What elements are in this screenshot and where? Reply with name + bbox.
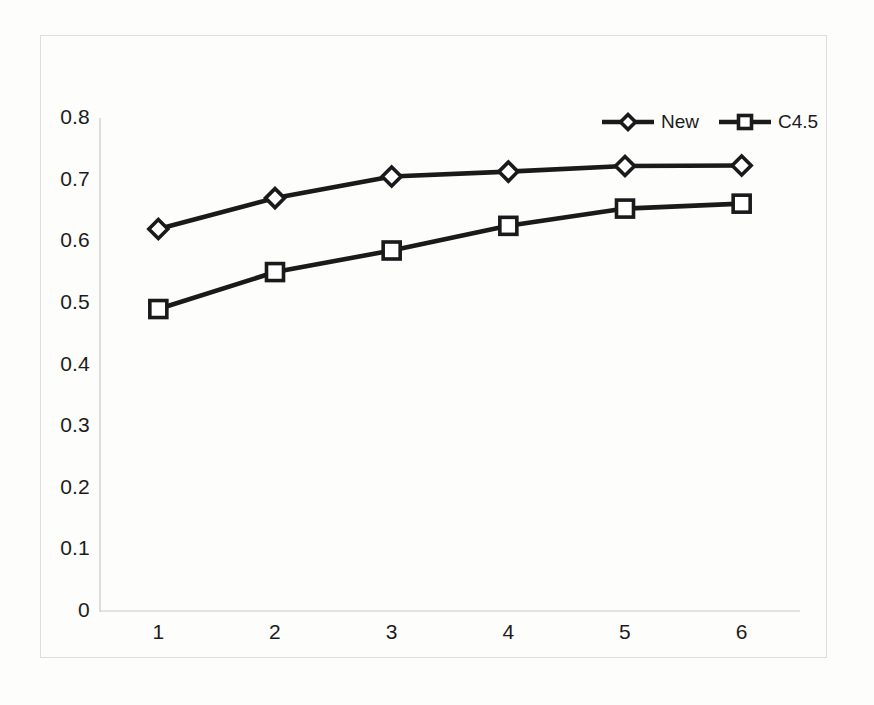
legend-entry: C4.5: [717, 110, 818, 134]
legend-label: New: [661, 111, 699, 133]
chart-legend: NewC4.5: [600, 110, 818, 134]
square-marker-icon: [150, 301, 167, 318]
diamond-marker-icon: [382, 167, 401, 186]
square-marker-icon: [383, 242, 400, 259]
y-tick-label: 0.2: [38, 475, 90, 499]
diamond-marker-icon: [499, 162, 518, 181]
x-tick-label: 6: [722, 620, 762, 644]
square-marker-icon: [733, 195, 750, 212]
y-tick-label: 0.3: [38, 413, 90, 437]
y-tick-label: 0.5: [38, 290, 90, 314]
y-tick-label: 0.6: [38, 228, 90, 252]
x-tick-label: 1: [138, 620, 178, 644]
y-tick-label: 0.1: [38, 536, 90, 560]
y-tick-label: 0: [38, 598, 90, 622]
x-tick-label: 5: [605, 620, 645, 644]
x-tick-label: 2: [255, 620, 295, 644]
series-line: [158, 204, 741, 309]
y-tick-label: 0.7: [38, 167, 90, 191]
series-line: [158, 165, 741, 228]
y-tick-label: 0.4: [38, 352, 90, 376]
plot-canvas: [0, 0, 874, 705]
x-tick-label: 3: [372, 620, 412, 644]
diamond-marker-icon: [621, 115, 636, 130]
legend-swatch: [600, 110, 656, 134]
x-tick-label: 4: [488, 620, 528, 644]
diamond-marker-icon: [732, 156, 751, 175]
series-c4-5: [150, 195, 750, 317]
square-marker-icon: [500, 217, 517, 234]
legend-entry: New: [600, 110, 699, 134]
diamond-marker-icon: [149, 219, 168, 238]
series-new: [149, 156, 751, 238]
legend-label: C4.5: [778, 111, 818, 133]
diamond-marker-icon: [616, 157, 635, 176]
y-tick-label: 0.8: [38, 105, 90, 129]
square-marker-icon: [267, 264, 284, 281]
legend-swatch: [717, 110, 773, 134]
square-marker-icon: [739, 116, 752, 129]
diamond-marker-icon: [266, 189, 285, 208]
chart-figure: 00.10.20.30.40.50.60.70.8 123456 NewC4.5: [0, 0, 874, 705]
series-layer: [149, 156, 751, 318]
square-marker-icon: [617, 200, 634, 217]
